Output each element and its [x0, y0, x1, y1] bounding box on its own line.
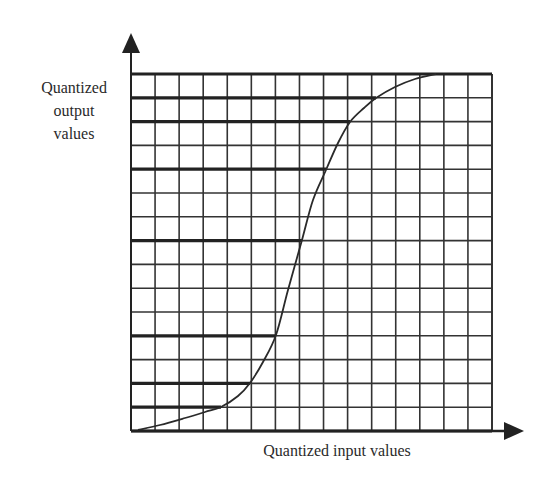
grid-lines	[131, 74, 492, 431]
quantization-level-lines	[131, 74, 492, 431]
y-axis-label: Quantized output values	[18, 76, 130, 145]
y-axis-label-line-3: values	[18, 122, 130, 145]
x-axis-arrow-icon	[504, 422, 524, 440]
quantization-diagram: Quantized output values Quantized input …	[0, 0, 554, 493]
transfer-curve-figure	[0, 0, 554, 493]
x-axis-label: Quantized input values	[236, 441, 438, 461]
y-axis-arrow-icon	[122, 33, 140, 53]
x-axis	[131, 422, 524, 440]
y-axis-label-line-1: Quantized	[18, 76, 130, 99]
transfer-curve	[138, 74, 436, 430]
y-axis-label-line-2: output	[18, 99, 130, 122]
